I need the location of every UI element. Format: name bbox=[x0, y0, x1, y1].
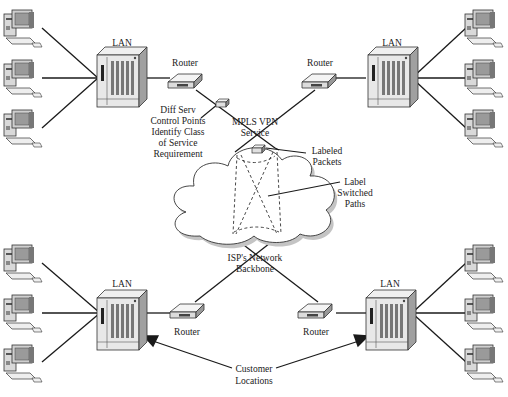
mpls-vpn-label: MPLS VPN Service bbox=[232, 117, 278, 138]
lan-server-icon-top-left bbox=[97, 47, 147, 107]
svg-text:Label: Label bbox=[344, 177, 366, 187]
router-icon-bottom-left bbox=[170, 304, 204, 318]
router-label-bottom-right: Router bbox=[303, 327, 330, 337]
svg-text:Service: Service bbox=[241, 128, 270, 138]
lan-label-top-right: LAN bbox=[382, 38, 402, 48]
router-label-top-left: Router bbox=[172, 58, 199, 68]
network-diagram: LAN LAN LAN LAN Router Router Router Rou… bbox=[0, 0, 508, 397]
svg-text:of Service: of Service bbox=[159, 138, 198, 148]
labeled-packets-label: Labeled Packets bbox=[312, 146, 343, 167]
computer-icon bbox=[4, 10, 42, 47]
router-icon-top-left bbox=[168, 74, 202, 88]
svg-text:Paths: Paths bbox=[345, 199, 366, 209]
router-icon-bottom-right bbox=[298, 304, 332, 318]
lan-label-bottom-left: LAN bbox=[112, 279, 132, 289]
computer-icon bbox=[4, 295, 42, 332]
svg-text:ISP's Network: ISP's Network bbox=[228, 253, 283, 263]
router-label-bottom-left: Router bbox=[174, 327, 201, 337]
svg-text:Requirement: Requirement bbox=[153, 149, 202, 159]
computers-top-left bbox=[4, 10, 42, 147]
computers-top-right bbox=[465, 10, 503, 147]
computer-icon bbox=[4, 345, 42, 382]
label-switched-paths-label: Label Switched Paths bbox=[337, 177, 373, 209]
computer-icon bbox=[465, 245, 503, 282]
isp-backbone-label: ISP's Network Backbone bbox=[228, 253, 283, 274]
svg-text:Labeled: Labeled bbox=[312, 146, 343, 156]
svg-text:Locations: Locations bbox=[235, 376, 273, 386]
computer-icon bbox=[465, 110, 503, 147]
svg-text:Customer: Customer bbox=[236, 364, 274, 374]
packet-icon bbox=[216, 99, 229, 107]
lan-server-icon-top-right bbox=[368, 47, 418, 107]
svg-text:Identify Class: Identify Class bbox=[151, 127, 204, 137]
lan-server-icon-bottom-right bbox=[366, 290, 416, 350]
computers-bottom-right bbox=[465, 245, 503, 382]
svg-text:Switched: Switched bbox=[337, 188, 373, 198]
labeled-packet-icon bbox=[252, 145, 265, 153]
router-icon-top-right bbox=[302, 74, 336, 88]
lan-server-icon-bottom-left bbox=[97, 290, 147, 350]
diffserv-label: Diff Serv Control Points Identify Class … bbox=[150, 105, 205, 159]
computer-icon bbox=[4, 60, 42, 97]
svg-text:Packets: Packets bbox=[312, 157, 341, 167]
computer-icon bbox=[465, 60, 503, 97]
svg-text:Control Points: Control Points bbox=[150, 116, 205, 126]
computer-icon bbox=[4, 110, 42, 147]
customer-locations-label: Customer Locations bbox=[235, 364, 273, 386]
router-label-top-right: Router bbox=[307, 58, 334, 68]
computer-icon bbox=[4, 245, 42, 282]
svg-text:Backbone: Backbone bbox=[236, 264, 274, 274]
computer-icon bbox=[465, 10, 503, 47]
lan-label-bottom-right: LAN bbox=[380, 279, 400, 289]
computer-icon bbox=[465, 295, 503, 332]
computer-icon bbox=[465, 345, 503, 382]
svg-text:MPLS VPN: MPLS VPN bbox=[232, 117, 278, 127]
lan-label-top-left: LAN bbox=[112, 38, 132, 48]
svg-text:Diff Serv: Diff Serv bbox=[160, 105, 196, 115]
computers-bottom-left bbox=[4, 245, 42, 382]
